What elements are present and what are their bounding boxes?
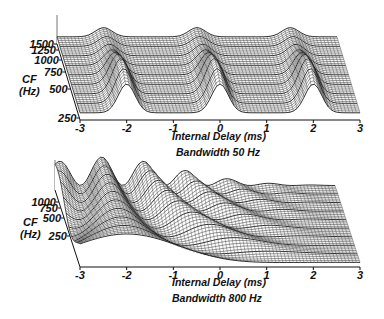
x-tick-label: 3 — [357, 122, 363, 134]
chart-title: Bandwidth 800 Hz — [172, 292, 263, 304]
x-tick-label: -3 — [75, 122, 85, 134]
y-axis-label-line1: CF — [22, 73, 37, 85]
surface-fill-strip — [80, 84, 360, 121]
x-axis-label: Internal Delay (ms) — [172, 276, 266, 288]
x-tick-label: -2 — [122, 269, 132, 281]
y-axis-label-line2: (Hz) — [20, 228, 41, 240]
surface-mesh — [57, 28, 360, 121]
surface-plot-bandwidth-800: 2505007501000 -3-2-10123 CF (Hz) Interna… — [20, 157, 363, 304]
figure: 250500750100012501500 -3-2-10123 CF (Hz)… — [0, 0, 384, 319]
x-tick-label: 2 — [309, 269, 316, 281]
surface-plot-bandwidth-50: 250500750100012501500 -3-2-10123 CF (Hz)… — [19, 15, 363, 158]
chart-title: Bandwidth 50 Hz — [176, 146, 261, 158]
x-axis-label: Internal Delay (ms) — [172, 130, 266, 142]
x-tick-label: -2 — [122, 122, 132, 134]
y-tick-label: 750 — [44, 66, 63, 78]
y-tick-label: 250 — [48, 230, 68, 242]
y-tick-label: 1000 — [31, 196, 56, 208]
y-axis-label-line1: CF — [23, 216, 38, 228]
x-tick-label: 3 — [357, 269, 363, 281]
x-tick-label: 2 — [309, 122, 316, 134]
y-tick-label: 500 — [49, 83, 68, 95]
x-tick-label: -3 — [75, 269, 85, 281]
surface-mesh — [55, 157, 360, 268]
y-axis-label-line2: (Hz) — [19, 85, 40, 97]
y-tick-label: 1500 — [30, 38, 55, 50]
